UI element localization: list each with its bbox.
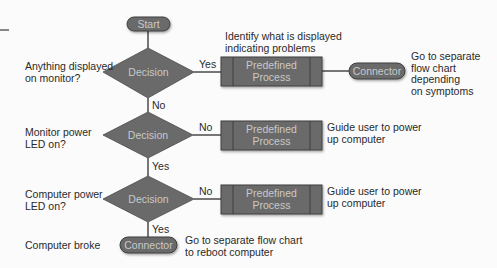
process-note-3-line2: up computer bbox=[327, 198, 422, 210]
branch-label-1-right: Yes bbox=[199, 59, 216, 71]
process-note-2: Guide user to power up computer bbox=[327, 122, 422, 145]
connector-note-end-line2: to reboot computer bbox=[185, 247, 302, 259]
process-note-2-line1: Guide user to power bbox=[327, 122, 422, 134]
question-2: Monitor power LED on? bbox=[25, 127, 92, 150]
process-label-3-line2: Process bbox=[233, 199, 310, 211]
process-label-2: Predefined Process bbox=[233, 123, 310, 147]
process-label-1-line1: Predefined bbox=[233, 59, 310, 71]
process-label-1-line2: Process bbox=[233, 71, 310, 83]
connector-note-1-line4: on symptoms bbox=[411, 86, 480, 98]
question-1: Anything displayed on monitor? bbox=[25, 61, 113, 84]
decision-label-1: Decision bbox=[103, 66, 194, 78]
process-label-3-line1: Predefined bbox=[233, 187, 310, 199]
branch-label-1-down: No bbox=[152, 100, 165, 112]
process-note-1-line1: Identify what is displayed bbox=[225, 31, 342, 43]
branch-label-2-right: No bbox=[199, 122, 212, 134]
question-2-line2: LED on? bbox=[25, 139, 92, 151]
branch-label-2-down: Yes bbox=[152, 161, 169, 173]
process-label-2-line1: Predefined bbox=[233, 123, 310, 135]
decision-label-2: Decision bbox=[103, 129, 193, 141]
question-1-line1: Anything displayed bbox=[25, 61, 113, 73]
connector-note-end-line1: Go to separate flow chart bbox=[185, 235, 302, 247]
question-3-line1: Computer power bbox=[25, 189, 103, 201]
process-label-2-line2: Process bbox=[233, 135, 310, 147]
start-label: Start bbox=[127, 18, 170, 30]
connector-note-1-line3: depending bbox=[411, 74, 480, 86]
process-note-1-line2: indicating problems bbox=[225, 43, 342, 55]
connector-note-end: Go to separate flow chart to reboot comp… bbox=[185, 235, 302, 258]
question-3-line2: LED on? bbox=[25, 201, 103, 213]
process-label-3: Predefined Process bbox=[233, 187, 310, 211]
process-label-1: Predefined Process bbox=[233, 59, 310, 83]
connector-label-end: Connector bbox=[120, 239, 177, 251]
process-note-3-line1: Guide user to power bbox=[327, 186, 422, 198]
process-note-2-line2: up computer bbox=[327, 134, 422, 146]
question-2-line1: Monitor power bbox=[25, 127, 92, 139]
branch-label-3-down: Yes bbox=[152, 224, 169, 236]
branch-label-3-right: No bbox=[199, 186, 212, 198]
process-note-3: Guide user to power up computer bbox=[327, 186, 422, 209]
process-note-1: Identify what is displayed indicating pr… bbox=[225, 31, 342, 54]
connector-note-1-line1: Go to separate bbox=[411, 51, 480, 63]
question-3: Computer power LED on? bbox=[25, 189, 103, 212]
connector-note-1: Go to separate flow chart depending on s… bbox=[411, 51, 480, 97]
question-1-line2: on monitor? bbox=[25, 73, 113, 85]
decision-label-3: Decision bbox=[103, 193, 194, 205]
connector-label-1: Connector bbox=[349, 65, 405, 77]
end-label: Computer broke bbox=[25, 240, 100, 252]
